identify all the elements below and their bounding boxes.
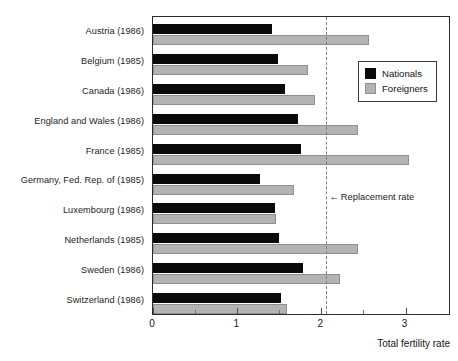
- chart-screenshot: Austria (1986)Belgium (1985)Canada (1986…: [0, 0, 458, 361]
- category-label: Belgium (1985): [81, 56, 144, 66]
- x-tick-minor: [195, 310, 196, 314]
- plot-area: NationalsForeigners: [152, 16, 450, 315]
- x-tick-label: 3: [402, 318, 408, 329]
- x-tick-major: [237, 308, 238, 314]
- x-tick-major: [406, 308, 407, 314]
- category-label: Netherlands (1985): [64, 235, 144, 245]
- category-label: Germany, Fed. Rep. of (1985): [21, 175, 144, 185]
- x-tick-minor: [279, 310, 280, 314]
- left-arrow-icon: ←: [330, 192, 339, 202]
- category-label: Switzerland (1986): [67, 295, 145, 305]
- category-label: Austria (1986): [86, 26, 144, 36]
- category-label: Sweden (1986): [81, 265, 144, 275]
- x-tick-major: [153, 308, 154, 314]
- x-axis-ticks: [153, 17, 449, 314]
- category-label: Luxembourg (1986): [63, 205, 144, 215]
- category-label: France (1985): [86, 146, 144, 156]
- category-label: England and Wales (1986): [34, 116, 144, 126]
- x-axis-title: Total fertility rate: [377, 338, 450, 349]
- x-tick-label: 2: [318, 318, 324, 329]
- x-tick-minor: [363, 310, 364, 314]
- x-tick-label: 1: [233, 318, 239, 329]
- replacement-rate-annotation: ←Replacement rate: [330, 192, 415, 202]
- replacement-rate-label: Replacement rate: [341, 192, 414, 202]
- x-tick-label: 0: [149, 318, 155, 329]
- category-axis-labels: Austria (1986)Belgium (1985)Canada (1986…: [0, 16, 148, 315]
- x-tick-major: [321, 308, 322, 314]
- category-label: Canada (1986): [82, 86, 144, 96]
